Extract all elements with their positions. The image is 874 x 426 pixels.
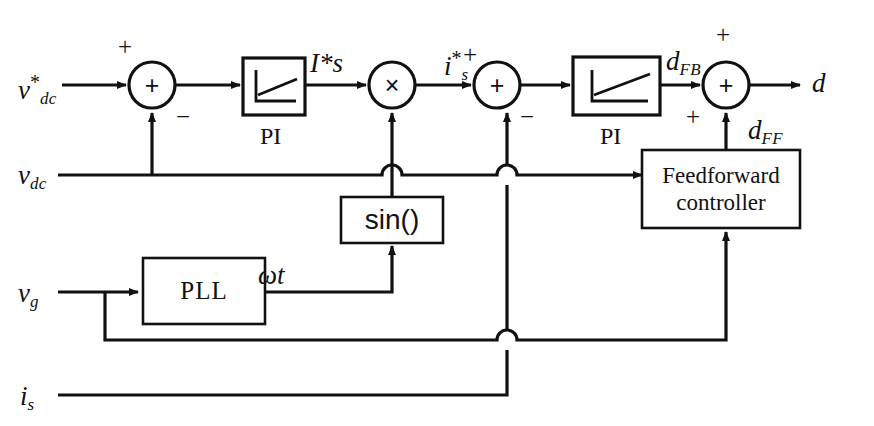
pi-block-voltage-rect — [243, 58, 305, 115]
label-vdc-feedback: vdc — [18, 162, 47, 192]
label-current-reference-base: i — [444, 51, 452, 81]
label-current-amplitude-ref-superscript: * — [319, 48, 333, 78]
label-duty-feedforward-base: d — [748, 115, 762, 145]
wire-is-feedback-bus — [58, 113, 507, 395]
summing-junction-current-circle — [474, 62, 520, 108]
label-vdc-feedback-base: v — [18, 160, 30, 190]
feedforward-controller-label[interactable]: Feedforward controller — [642, 150, 800, 228]
block-diagram-canvas: + × + + + − + − + + v*dc vdc vg is I*s i… — [0, 0, 874, 426]
label-current-amplitude-ref-subscript: s — [333, 48, 344, 78]
label-duty-output-base: d — [812, 68, 826, 98]
label-is-base: i — [20, 381, 28, 411]
multiplier-junction-circle — [369, 62, 415, 108]
label-current-amplitude-ref: I*s — [310, 50, 343, 77]
pll-block-label[interactable]: PLL — [143, 258, 265, 324]
polarity-sign-sum2-minus: − — [520, 104, 534, 129]
label-duty-feedforward-subscript: FF — [762, 129, 783, 148]
label-duty-feedback-subscript: FB — [680, 60, 701, 79]
polarity-sign-sum3-plus-top: + — [716, 22, 730, 47]
polarity-sign-sum1-plus: + — [118, 34, 132, 59]
sin-block-label[interactable]: sin() — [341, 197, 443, 243]
label-current-reference-subscript: s — [462, 65, 469, 84]
summing-junction-duty-circle — [703, 62, 749, 108]
label-duty-feedback-base: d — [666, 46, 680, 76]
label-duty-feedback: dFB — [666, 48, 701, 78]
pi-caption-current: PI — [600, 124, 621, 148]
label-current-reference-superscript: * — [452, 47, 462, 69]
label-is-subscript: s — [28, 395, 35, 414]
label-current-amplitude-ref-base: I — [310, 48, 319, 78]
label-current-reference: i*s — [444, 48, 468, 83]
summing-junction-voltage-circle — [129, 62, 175, 108]
label-vdc-reference-base: v — [18, 75, 30, 105]
label-vdc-feedback-subscript: dc — [30, 174, 47, 193]
polarity-sign-sum1-minus: − — [176, 104, 190, 129]
label-is: is — [20, 383, 34, 413]
label-vg-subscript: g — [30, 292, 39, 311]
label-vdc-reference-superscript: * — [30, 71, 40, 93]
label-duty-feedforward: dFF — [748, 117, 783, 147]
label-vdc-reference: v*dc — [18, 72, 57, 107]
wire-vdc-feedback-bus — [58, 165, 642, 175]
label-vg-base: v — [18, 278, 30, 308]
label-vg: vg — [18, 280, 39, 310]
label-duty-output: d — [812, 70, 826, 97]
label-vdc-reference-subscript: dc — [40, 89, 57, 108]
polarity-sign-sum3-plus-bottom: + — [686, 104, 700, 129]
pi-caption-voltage: PI — [260, 124, 281, 148]
